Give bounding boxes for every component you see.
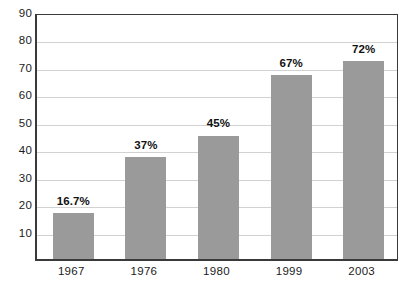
x-tick-label: 1976	[108, 266, 181, 278]
x-tick-label: 2003	[325, 266, 398, 278]
y-tick-label: 30	[6, 173, 32, 185]
bar-value-label: 67%	[253, 58, 330, 70]
y-tick-label: 60	[6, 90, 32, 102]
bar-chart-figure: 908070605040302010 16.7%37%45%67%72% 196…	[0, 0, 413, 303]
bar-value-label: 45%	[180, 118, 257, 130]
bar	[271, 75, 312, 259]
bar-group: 16.7%	[53, 15, 94, 259]
x-tick-label: 1999	[253, 266, 326, 278]
x-tick-label: 1980	[180, 266, 253, 278]
bar-value-label: 72%	[325, 44, 402, 56]
bar-group: 72%	[343, 15, 384, 259]
bar-value-label: 16.7%	[35, 196, 112, 208]
y-tick-label: 20	[6, 200, 32, 212]
bar-value-label: 37%	[107, 140, 184, 152]
bar	[343, 61, 384, 259]
y-tick-label: 70	[6, 63, 32, 75]
bar	[125, 157, 166, 259]
y-tick-label: 10	[6, 228, 32, 240]
x-axis: 19671976198019992003	[35, 266, 398, 290]
bar-group: 67%	[271, 15, 312, 259]
plot-area: 16.7%37%45%67%72%	[35, 14, 398, 261]
bar-group: 45%	[198, 15, 239, 259]
y-tick-label: 50	[6, 118, 32, 130]
y-tick-label: 40	[6, 145, 32, 157]
bar	[198, 136, 239, 260]
x-tick-label: 1967	[35, 266, 108, 278]
bar	[53, 213, 94, 259]
bar-group: 37%	[125, 15, 166, 259]
y-tick-label: 90	[6, 8, 32, 20]
y-axis: 908070605040302010	[0, 0, 32, 303]
y-tick-label: 80	[6, 35, 32, 47]
bars-layer: 16.7%37%45%67%72%	[37, 15, 397, 259]
